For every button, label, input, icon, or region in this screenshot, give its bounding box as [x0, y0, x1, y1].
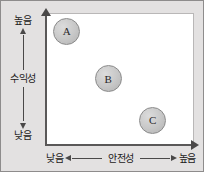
y-axis-line: [45, 15, 47, 145]
x-right-arrow-shaft: [140, 158, 170, 159]
x-axis-high-label: 높음: [179, 153, 196, 164]
x-axis-title: 안전성: [105, 153, 137, 164]
arrow-down-icon: [20, 123, 26, 129]
arrow-up-icon: [20, 28, 26, 34]
x-axis-line: [45, 144, 193, 146]
x-axis-left-direction: [63, 150, 105, 166]
y-axis-title: 수익성: [10, 72, 36, 85]
x-axis-low-label: 낮음: [46, 153, 63, 164]
arrow-left-icon: [65, 155, 71, 161]
y-axis-down-direction: [3, 85, 43, 131]
x-axis-arrow-right-icon: [191, 140, 199, 150]
data-point-a: A: [53, 18, 80, 45]
y-axis-annotation: 높음 수익성 낮음: [3, 15, 43, 141]
risk-return-scatter-figure: 높음 수익성 낮음 낮음 안전성 높음 A B C: [0, 0, 204, 172]
y-axis-up-direction: [3, 26, 43, 72]
y-axis-low-label: 낮음: [14, 130, 31, 141]
x-left-arrow-shaft: [72, 158, 102, 159]
x-axis-annotation: 낮음 안전성 높음: [46, 150, 196, 166]
arrow-right-icon: [171, 155, 177, 161]
x-axis-right-direction: [137, 150, 179, 166]
y-axis-high-label: 높음: [14, 15, 31, 26]
y-up-arrow-shaft: [23, 35, 24, 70]
data-point-c: C: [139, 107, 166, 134]
y-down-arrow-shaft: [23, 87, 24, 122]
data-point-b: B: [95, 65, 122, 92]
